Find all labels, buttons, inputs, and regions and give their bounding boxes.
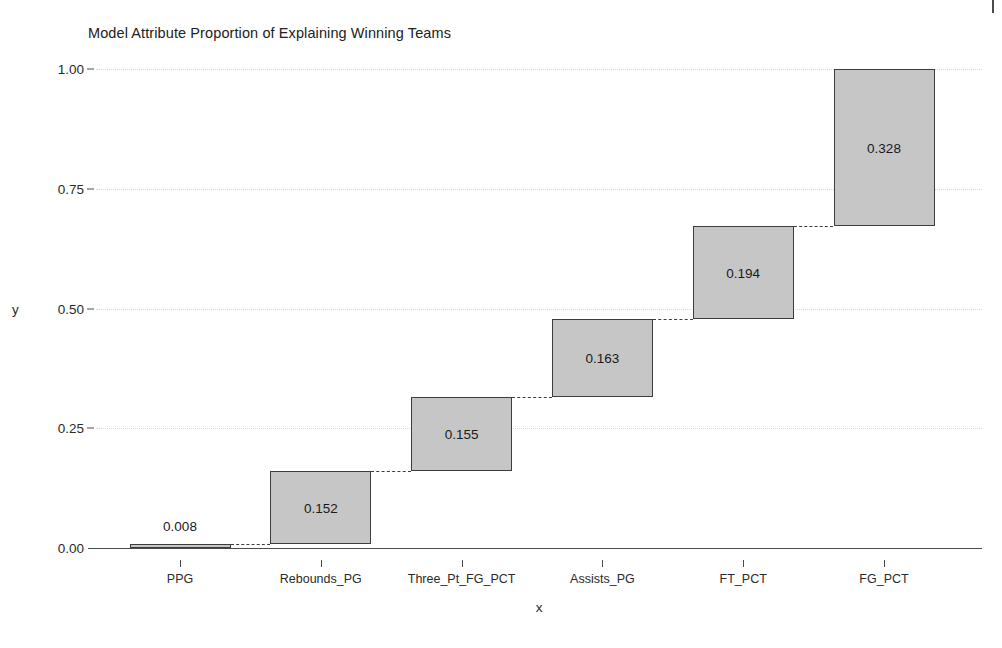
x-tick-label-Rebounds_PG: Rebounds_PG	[280, 572, 362, 586]
bar-FT_PCT[interactable]	[693, 226, 794, 319]
y-tick-label-0.00: 0.00	[58, 541, 84, 556]
x-tick-mark-Three_Pt_FG_PCT	[462, 560, 463, 567]
y-tick-label-0.75: 0.75	[58, 181, 84, 196]
y-axis-title: y	[12, 302, 19, 317]
waterfall-chart: Model Attribute Proportion of Explaining…	[0, 0, 1002, 648]
x-tick-mark-Rebounds_PG	[321, 560, 322, 567]
x-tick-mark-FG_PCT	[884, 560, 885, 567]
bar-FG_PCT[interactable]	[834, 69, 935, 226]
gridline-0.25	[96, 428, 982, 429]
gridline-0.50	[96, 309, 982, 310]
y-tick-label-0.25: 0.25	[58, 421, 84, 436]
plot-area: 0.0080.1520.1550.1630.1940.328	[96, 60, 982, 556]
y-tick-mark-0.25	[87, 428, 94, 429]
x-tick-label-PPG: PPG	[167, 572, 193, 586]
x-tick-mark-PPG	[180, 560, 181, 567]
y-tick-mark-1.00	[87, 69, 94, 70]
bar-Rebounds_PG[interactable]	[270, 471, 371, 544]
corner-artifact-mark	[992, 0, 994, 13]
x-axis-title: x	[536, 600, 543, 615]
connector-Assists_PG-to-FT_PCT	[653, 319, 693, 320]
x-tick-label-Three_Pt_FG_PCT: Three_Pt_FG_PCT	[408, 572, 516, 586]
x-tick-label-FG_PCT: FG_PCT	[859, 572, 908, 586]
x-tick-mark-FT_PCT	[743, 560, 744, 567]
bar-value-label-PPG: 0.008	[163, 519, 197, 534]
chart-title: Model Attribute Proportion of Explaining…	[88, 25, 451, 41]
y-tick-mark-0.50	[87, 308, 94, 309]
connector-Three_Pt_FG_PCT-to-Assists_PG	[512, 397, 552, 398]
bar-Assists_PG[interactable]	[552, 319, 653, 397]
x-tick-label-FT_PCT: FT_PCT	[720, 572, 767, 586]
x-tick-label-Assists_PG: Assists_PG	[570, 572, 635, 586]
bar-Three_Pt_FG_PCT[interactable]	[411, 397, 512, 471]
connector-Rebounds_PG-to-Three_Pt_FG_PCT	[371, 471, 411, 472]
x-axis-baseline	[88, 548, 982, 549]
y-tick-mark-0.75	[87, 188, 94, 189]
x-tick-mark-Assists_PG	[602, 560, 603, 567]
y-tick-label-0.50: 0.50	[58, 301, 84, 316]
connector-PPG-to-Rebounds_PG	[231, 544, 271, 545]
bar-PPG[interactable]	[130, 544, 231, 548]
y-tick-label-1.00: 1.00	[58, 62, 84, 77]
connector-FT_PCT-to-FG_PCT	[794, 226, 834, 227]
